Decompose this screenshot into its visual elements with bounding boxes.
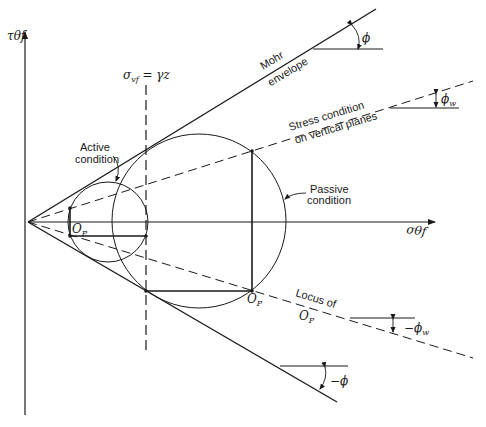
- neg-phi-label: −ϕ: [330, 374, 348, 388]
- vertical-stress-label: σvf = γz: [123, 68, 171, 84]
- locus-label: Locus of: [294, 286, 338, 310]
- passive-point-left: [144, 289, 148, 293]
- mohr-diagram: τθf σθf σvf = γz Mohr envelope Stress co…: [0, 0, 486, 427]
- active-label-line2: condition: [75, 153, 119, 165]
- neg-phi-w-label: −ϕw: [404, 321, 429, 337]
- passive-point-top: [250, 149, 254, 153]
- sigma-axis-label: σθf: [406, 222, 430, 239]
- passive-label-line2: condition: [307, 194, 351, 206]
- passive-circle: [112, 134, 286, 308]
- locus-of-op-line: [28, 222, 473, 358]
- passive-pole-label: OP: [247, 292, 263, 308]
- mohr-envelope-label: Mohr envelope: [256, 39, 310, 88]
- tau-axis-label: τθf: [7, 29, 28, 43]
- active-label-line1: Active: [80, 141, 110, 153]
- mohr-envelope-lower: [28, 222, 337, 402]
- phi-w-label: ϕw: [441, 92, 456, 108]
- passive-leader-arrow: [285, 193, 306, 199]
- active-pole-label: OP: [72, 222, 88, 238]
- active-point-top: [68, 206, 72, 210]
- stress-condition-label: Stress condition on vertical planes: [287, 96, 379, 147]
- svg-text:Locus of: Locus of: [294, 286, 338, 310]
- active-point-right: [144, 234, 148, 238]
- phi-label: ϕ: [362, 31, 370, 45]
- locus-op-label: OP: [299, 309, 315, 325]
- phi-angle-annotation: [313, 25, 383, 49]
